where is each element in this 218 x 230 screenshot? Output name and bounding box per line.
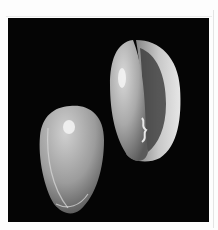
left-shell: [40, 106, 104, 214]
shell-photograph: [8, 18, 209, 222]
frame-top-border: [6, 16, 212, 17]
shells-illustration: [8, 18, 209, 222]
frame-right-border: [213, 10, 214, 228]
right-shell: [110, 40, 180, 161]
